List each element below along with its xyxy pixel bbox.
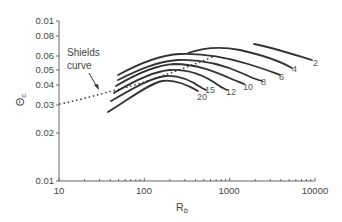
x-tick-label: 10 <box>54 185 65 196</box>
curve-label-6: 6 <box>279 72 284 82</box>
curve-label-20: 20 <box>197 92 207 102</box>
curve-2 <box>254 44 312 60</box>
y-tick-label: 0.05 <box>36 64 55 75</box>
y-tick-label: 0.02 <box>36 127 55 138</box>
y-tick-label: 0.01 <box>36 175 55 186</box>
y-tick-labels: 0.01 0.08 0.06 0.05 0.04 0.03 0.02 0.01 <box>36 15 55 186</box>
curve-label-12: 12 <box>226 87 236 97</box>
curve-20 <box>108 81 198 112</box>
y-tick-label: 0.03 <box>36 99 55 110</box>
y-tick-label: 0.08 <box>36 30 55 41</box>
y-axis-label: Θc <box>14 94 28 107</box>
x-tick-label: 100 <box>136 185 152 196</box>
annotation-arrow-icon <box>89 73 99 90</box>
shields-annotation-line1: Shields <box>67 47 100 58</box>
y-tick-label: 0.01 <box>36 15 55 26</box>
y-tick-label: 0.06 <box>36 50 55 61</box>
curve-8 <box>118 60 262 81</box>
x-tick-label: 10000 <box>302 185 328 196</box>
x-tick-label: 1000 <box>218 185 239 196</box>
y-tick-label: 0.04 <box>36 79 55 90</box>
curve-label-10: 10 <box>243 82 253 92</box>
curve-label-4: 4 <box>292 64 297 74</box>
curve-label-8: 8 <box>261 77 266 87</box>
curve-4 <box>188 48 292 68</box>
shields-annotation-line2: curve <box>67 60 92 71</box>
curve-label-2: 2 <box>313 58 318 68</box>
x-axis-label: Rb <box>176 201 188 215</box>
chart: 0.01 0.08 0.06 0.05 0.04 0.03 0.02 0.01 <box>0 0 342 222</box>
x-tick-labels: 10 100 1000 10000 <box>54 185 329 196</box>
